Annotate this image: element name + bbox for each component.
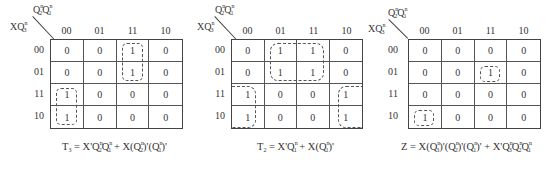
column-header: 10 <box>149 25 182 36</box>
cell: 0 <box>117 106 150 128</box>
corner-divider <box>388 19 408 39</box>
row-variables-label: XQn3 <box>197 20 213 33</box>
row-header: 01 <box>378 66 398 77</box>
cell: 0 <box>507 84 540 106</box>
group-loop <box>480 66 500 82</box>
kmap-t3: Qn2Qn1 XQn3 00 01 11 10 00 01 11 10 0 0 … <box>0 0 185 171</box>
cell: 0 <box>442 40 475 62</box>
group-loop <box>414 110 434 126</box>
cell: 0 <box>442 106 475 128</box>
row-variables-label: XQn3 <box>368 22 384 35</box>
row-header: 10 <box>205 110 225 121</box>
column-header: 00 <box>231 25 264 36</box>
cell: 0 <box>84 40 117 62</box>
kmap-z: Qn2Qn1 XQn3 00 01 11 10 00 01 11 10 0 0 … <box>358 0 550 171</box>
cell: 0 <box>84 84 117 106</box>
column-header: 01 <box>441 25 474 36</box>
cell: 0 <box>507 62 540 84</box>
cell: 0 <box>149 62 182 84</box>
column-header: 11 <box>474 25 507 36</box>
cell: 0 <box>409 62 442 84</box>
column-header: 00 <box>408 25 441 36</box>
row-header: 00 <box>24 44 44 55</box>
cell: 0 <box>51 40 84 62</box>
cell: 0 <box>117 84 150 106</box>
row-header: 11 <box>205 88 225 99</box>
cell: 0 <box>265 106 298 128</box>
column-header: 01 <box>83 25 116 36</box>
cell: 0 <box>149 106 182 128</box>
row-header: 00 <box>205 44 225 55</box>
cell: 0 <box>84 106 117 128</box>
column-header: 10 <box>507 25 540 36</box>
row-header: 10 <box>378 110 398 121</box>
cell: 0 <box>265 84 298 106</box>
equation-t3: T3 = X'Qn2Qn1 + X(Qn2)'(Qn1)' <box>62 140 167 153</box>
cell: 0 <box>51 62 84 84</box>
equation-z: Z = X(Qn3)'(Qn2)'(Qn1)' + X'Qn3Qn2Qn1 <box>401 140 531 153</box>
column-header: 11 <box>116 25 149 36</box>
row-variables-label: XQn3 <box>10 20 26 33</box>
cell: 0 <box>475 40 508 62</box>
cell: 0 <box>232 40 265 62</box>
cell: 0 <box>232 62 265 84</box>
row-header: 01 <box>205 66 225 77</box>
kmap-t2: Qn2Qn1 XQn3 00 01 11 10 00 01 11 10 0 1 … <box>181 0 366 171</box>
cell: 0 <box>442 62 475 84</box>
cell: 0 <box>409 40 442 62</box>
cell: 0 <box>475 84 508 106</box>
row-header: 10 <box>24 110 44 121</box>
group-loop <box>56 88 77 125</box>
row-header: 01 <box>24 66 44 77</box>
equation-t2: T2 = X'Qn1 + X(Qn1)' <box>257 140 334 153</box>
column-header: 00 <box>50 25 83 36</box>
cell: 0 <box>409 84 442 106</box>
column-variables-label: Qn2Qn1 <box>215 3 233 16</box>
cell: 0 <box>475 106 508 128</box>
cell: 0 <box>297 84 330 106</box>
row-header: 00 <box>378 44 398 55</box>
cell: 0 <box>84 62 117 84</box>
cell: 0 <box>149 84 182 106</box>
cell: 0 <box>507 106 540 128</box>
column-header: 01 <box>264 25 297 36</box>
cell: 0 <box>297 106 330 128</box>
group-loop-wrap-left <box>232 86 256 128</box>
group-loop <box>122 43 143 81</box>
cell: 0 <box>507 40 540 62</box>
row-header: 11 <box>378 88 398 99</box>
group-loop <box>270 43 324 81</box>
row-header: 11 <box>24 88 44 99</box>
cell: 0 <box>149 40 182 62</box>
column-header: 11 <box>297 25 330 36</box>
column-variables-label: Qn2Qn1 <box>33 3 51 16</box>
cell: 0 <box>442 84 475 106</box>
column-variables-label: Qn2Qn1 <box>388 6 406 19</box>
